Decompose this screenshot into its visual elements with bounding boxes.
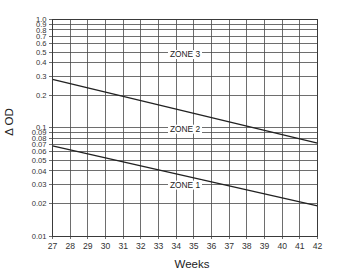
y-tick-label: 0.03 [32,180,47,189]
x-axis-tick-labels: 27282930313233343536373839404142 [48,241,323,251]
y-tick-label: 0.05 [32,156,47,165]
x-tick-label: 40 [277,241,287,251]
y-tick-label: 0.02 [32,199,47,208]
x-tick-label: 32 [136,241,146,251]
liley-chart: ZONE 3ZONE 2ZONE 1 1.00.90.80.70.60.50.4… [0,0,337,280]
y-axis-tick-labels: 1.00.90.80.70.60.50.40.30.20.10.090.080.… [32,15,47,241]
x-tick-label: 41 [295,241,305,251]
x-tick-label: 39 [260,241,270,251]
y-tick-label: 0.2 [36,91,47,100]
y-axis-title: Δ OD [3,108,15,136]
zone-label: ZONE 3 [170,49,201,59]
x-axis-title: Weeks [175,258,210,270]
x-tick-label: 36 [207,241,217,251]
x-tick-label: 29 [83,241,93,251]
x-tick-label: 34 [171,241,181,251]
zone-label: ZONE 2 [170,124,201,134]
x-tick-label: 37 [224,241,234,251]
zone-labels: ZONE 3ZONE 2ZONE 1 [168,49,202,190]
y-tick-label: 0.5 [36,48,47,57]
x-tick-label: 42 [313,241,323,251]
zone-label: ZONE 1 [170,180,201,190]
x-tick-label: 38 [242,241,252,251]
y-tick-label: 0.4 [36,58,47,67]
x-tick-label: 30 [101,241,111,251]
x-tick-label: 28 [65,241,75,251]
x-tick-label: 31 [118,241,128,251]
x-tick-label: 27 [48,241,58,251]
y-tick-label: 0.04 [32,167,47,176]
y-tick-label: 0.3 [36,72,47,81]
x-tick-label: 33 [154,241,164,251]
zone-boundary-line [53,146,318,206]
x-tick-label: 35 [189,241,199,251]
y-tick-label: 0.01 [32,232,47,241]
